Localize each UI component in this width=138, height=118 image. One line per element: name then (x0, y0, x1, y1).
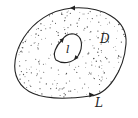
stipple-dot (26, 68, 27, 69)
stipple-dot (66, 83, 67, 84)
stipple-dot (83, 29, 84, 30)
stipple-dot (31, 72, 32, 73)
stipple-dot (101, 76, 102, 77)
stipple-dot (63, 96, 64, 97)
stipple-dot (35, 42, 36, 43)
stipple-dot (118, 81, 119, 82)
stipple-dot (88, 87, 89, 88)
stipple-dot (29, 51, 30, 52)
stipple-dot (121, 85, 122, 86)
stipple-dot (126, 20, 127, 21)
stipple-dot (107, 98, 108, 99)
stipple-dot (104, 72, 105, 73)
stipple-dot (92, 45, 93, 46)
stipple-dot (39, 60, 40, 61)
stipple-dot (85, 62, 86, 63)
stipple-dot (9, 78, 10, 79)
stipple-dot (106, 18, 107, 19)
stipple-dot (8, 25, 9, 26)
stipple-dot (88, 74, 89, 75)
stipple-dot (65, 33, 66, 34)
stipple-dot (36, 29, 37, 30)
stipple-dot (22, 90, 23, 91)
stipple-dot (8, 45, 9, 46)
stipple-dot (67, 33, 68, 34)
stipple-dot (54, 80, 55, 81)
stipple-dot (38, 43, 39, 44)
stipple-dot (101, 80, 102, 81)
stipple-dot (109, 61, 110, 62)
outer-curve-label: L (94, 96, 103, 110)
stipple-dot (78, 19, 79, 20)
stipple-dot (50, 55, 51, 56)
stipple-dot (129, 7, 130, 8)
stipple-dot (11, 56, 12, 57)
stipple-dot (110, 95, 111, 96)
stipple-dot (27, 92, 28, 93)
stipple-dot (30, 86, 31, 87)
stipple-dot (99, 84, 100, 85)
stipple-dot (69, 64, 70, 65)
stipple-dot (11, 46, 12, 47)
stipple-dot (129, 85, 130, 86)
stipple-dot (91, 72, 92, 73)
stipple-dot (87, 53, 88, 54)
stipple-dot (37, 17, 38, 18)
stipple-dot (87, 26, 88, 27)
stipple-dot (90, 11, 91, 12)
stipple-dot (19, 39, 20, 40)
stipple-dot (22, 51, 23, 52)
stipple-dot (77, 26, 78, 27)
stipple-dot (100, 15, 101, 16)
stipple-dot (22, 29, 23, 30)
stipple-dot (126, 90, 127, 91)
stipple-dot (123, 34, 124, 35)
stipple-dot (16, 45, 17, 46)
stipple-dot (34, 42, 35, 43)
stipple-dot (38, 48, 39, 49)
stipple-dot (17, 16, 18, 17)
stipple-dot (38, 35, 39, 36)
stipple-dot (76, 23, 77, 24)
stipple-dot (70, 13, 71, 14)
stipple-dot (66, 6, 67, 7)
stipple-dot (124, 36, 125, 37)
stipple-dot (40, 23, 41, 24)
stipple-dot (58, 89, 59, 90)
stipple-dot (128, 67, 129, 68)
stipple-dot (24, 82, 25, 83)
stipple-dot (39, 71, 40, 72)
stipple-dot (66, 73, 67, 74)
stipple-dot (74, 37, 75, 38)
stipple-dot (127, 49, 128, 50)
stipple-dot (8, 97, 9, 98)
stipple-dot (79, 18, 80, 19)
stipple-dot (98, 75, 99, 76)
stipple-dot (45, 28, 46, 29)
stipple-dot (78, 66, 79, 67)
stipple-dot (101, 50, 102, 51)
stipple-dot (118, 24, 119, 25)
stipple-dot (36, 75, 37, 76)
stipple-dot (89, 73, 90, 74)
stipple-dot (67, 15, 68, 16)
stipple-dot (31, 45, 32, 46)
stipple-dot (105, 57, 106, 58)
stipple-dot (29, 12, 30, 13)
stipple-dot (22, 42, 23, 43)
stipple-dot (23, 17, 24, 18)
stipple-dot (70, 99, 71, 100)
stipple-dot (100, 8, 101, 9)
stipple-dot (61, 48, 62, 49)
stipple-dot (18, 34, 19, 35)
stipple-dot (75, 67, 76, 68)
stipple-dot (114, 26, 115, 27)
stipple-dot (76, 72, 77, 73)
stipple-dot (123, 6, 124, 7)
stipple-dot (115, 50, 116, 51)
stipple-dot (63, 14, 64, 15)
stipple-dot (22, 47, 23, 48)
stipple-dot (16, 26, 17, 27)
stipple-dot (97, 52, 98, 53)
stipple-dot (119, 16, 120, 17)
